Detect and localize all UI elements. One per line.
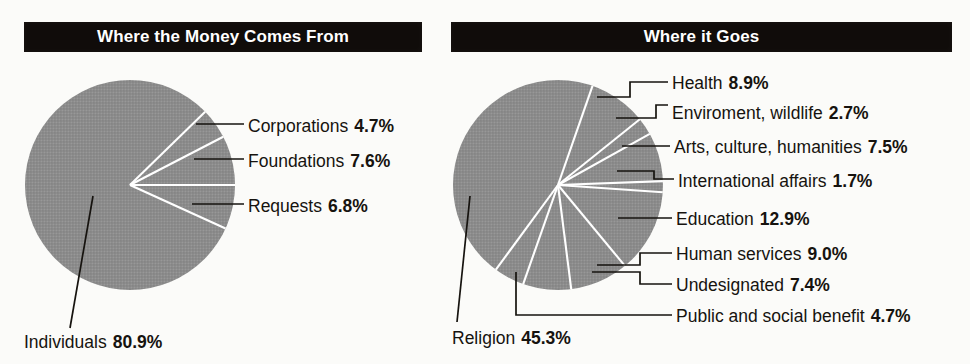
callout-health-name: Health [672, 73, 723, 93]
callout-enviroment-wildlife-name: Enviroment, wildlife [672, 103, 823, 123]
callout-human-services-value: 9.0% [807, 244, 847, 264]
callout-undesignated: Undesignated7.4% [676, 277, 830, 295]
callout-health: Health8.9% [672, 75, 768, 93]
callout-human-services: Human services9.0% [676, 246, 847, 264]
callout-education-name: Education [676, 209, 754, 229]
callout-enviroment-wildlife-value: 2.7% [829, 103, 869, 123]
callout-requests: Requests6.8% [248, 198, 368, 216]
callout-foundations-value: 7.6% [350, 151, 390, 171]
callout-foundations-name: Foundations [248, 151, 344, 171]
callout-international-affairs-name: International affairs [678, 171, 827, 191]
callout-foundations: Foundations7.6% [248, 153, 390, 171]
callout-individuals: Individuals80.9% [24, 334, 162, 352]
pie-chart-money-comes-from [25, 80, 235, 290]
callout-public-and-social-benefit-value: 4.7% [871, 306, 911, 326]
callout-public-and-social-benefit-name: Public and social benefit [676, 306, 865, 326]
callout-corporations: Corporations4.7% [248, 118, 394, 136]
callout-requests-name: Requests [248, 196, 322, 216]
callout-education: Education12.9% [676, 211, 809, 229]
callout-religion-value: 45.3% [521, 328, 571, 348]
callout-religion: Religion45.3% [452, 330, 571, 348]
callout-international-affairs-value: 1.7% [833, 171, 873, 191]
callout-arts-culture-humanities: Arts, culture, humanities7.5% [674, 139, 908, 157]
callout-corporations-value: 4.7% [354, 116, 394, 136]
callout-individuals-value: 80.9% [113, 332, 163, 352]
callout-international-affairs: International affairs1.7% [678, 173, 872, 191]
callout-religion-name: Religion [452, 328, 515, 348]
callout-education-value: 12.9% [760, 209, 810, 229]
callout-undesignated-value: 7.4% [790, 275, 830, 295]
callout-arts-culture-humanities-value: 7.5% [868, 137, 908, 157]
callout-requests-value: 6.8% [328, 196, 368, 216]
callout-health-value: 8.9% [729, 73, 769, 93]
callout-individuals-name: Individuals [24, 332, 107, 352]
pie-chart-where-it-goes [453, 80, 663, 290]
callout-corporations-name: Corporations [248, 116, 348, 136]
callout-undesignated-name: Undesignated [676, 275, 784, 295]
callout-enviroment-wildlife: Enviroment, wildlife2.7% [672, 105, 869, 123]
callout-arts-culture-humanities-name: Arts, culture, humanities [674, 137, 862, 157]
callout-human-services-name: Human services [676, 244, 801, 264]
callout-public-and-social-benefit: Public and social benefit4.7% [676, 308, 911, 326]
